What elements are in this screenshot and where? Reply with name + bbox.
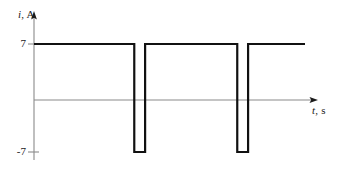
waveform-trace xyxy=(34,44,305,152)
x-axis-label: t, s xyxy=(312,104,326,116)
plot-canvas xyxy=(0,0,339,173)
current-waveform-figure: i, A t, s 7 -7 xyxy=(0,0,339,173)
y-axis-label: i, A xyxy=(18,8,35,20)
x-axis-unit: , s xyxy=(315,104,325,116)
y-tick-label-negative: -7 xyxy=(0,145,26,157)
y-axis-unit: , A xyxy=(21,8,34,20)
y-tick-label-positive: 7 xyxy=(0,37,26,49)
axes-group xyxy=(28,11,318,160)
waveform-series xyxy=(34,44,305,152)
